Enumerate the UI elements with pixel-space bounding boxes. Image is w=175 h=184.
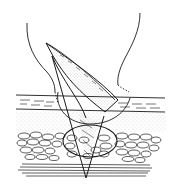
- outer-contour-left: [27, 23, 55, 92]
- illustration-canvas: [0, 0, 175, 184]
- outer-contour-right: [118, 13, 140, 85]
- outer-contour-right-dotted: [118, 85, 129, 92]
- flap-blade: [46, 43, 118, 118]
- surgical-flap-illustration: [0, 0, 175, 184]
